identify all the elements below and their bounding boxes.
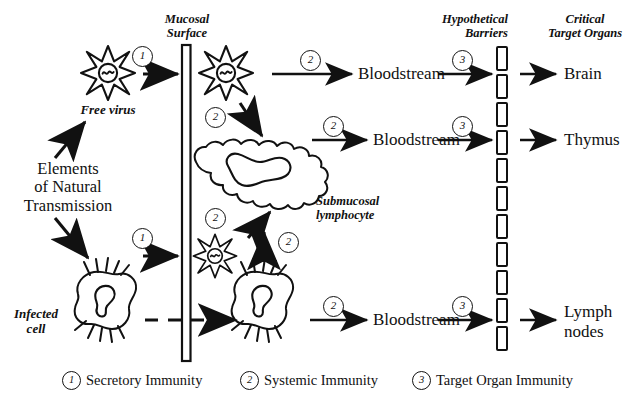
arrow-virus-up-to-lymphocyte [248,212,270,238]
step-marker-cell-entry: 1 [132,228,153,249]
arrow-virus-to-lymphocyte [240,103,262,136]
legend-item-systemic-immunity: 2Systemic Immunity [240,371,378,390]
mucosal-surface-bar [182,45,191,361]
organ-thymus: Thymus [564,130,620,149]
step-marker-cell-to-blood: 2 [323,296,344,317]
step-marker-virus-infect: 2 [205,107,226,128]
legend-label-1: Secretory Immunity [86,372,202,388]
legend-marker-2: 2 [240,371,259,390]
legend-marker-1: 1 [62,371,81,390]
legend-item-target-organ-immunity: 3Target Organ Immunity [412,371,573,390]
label-free-virus: Free virus [62,103,154,118]
header-mucosal-surface: Mucosal Surface [150,12,224,40]
arrow-transmission-to-cell [55,218,88,258]
submucosal-virus-icon [193,234,236,277]
free-virus-icon [81,46,135,100]
organ-brain: Brain [564,64,602,83]
diagram-canvas: Mucosal Surface Hypothetical Barriers Cr… [0,0,644,411]
submucosal-lymphocyte-icon [195,140,328,209]
arrow-transmission-to-virus [55,122,85,158]
step-marker-cell-to-virus: 2 [205,208,226,229]
step-marker-virus-entry: 1 [132,46,153,67]
legend-label-3: Target Organ Immunity [436,372,573,388]
hypothetical-barrier-stack [497,47,507,350]
legend-label-2: Systemic Immunity [264,372,378,388]
label-elements-of-natural-transmission: Elements of Natural Transmission [12,160,124,215]
label-submucosal-lymphocyte: Submucosal lymphocyte [316,194,426,222]
header-critical-target-organs: Critical Target Organs [535,12,635,40]
step-marker-cell-to-lymphocyte: 2 [278,232,299,253]
organ-lymph-nodes: Lymph nodes [564,302,612,341]
step-marker-lymphocyte-to-blood-2: 2 [323,116,344,137]
legend-item-secretory-immunity: 1Secretory Immunity [62,371,202,390]
step-marker-barrier-brain: 3 [452,50,473,71]
bloodstream-brain: Bloodstream [358,64,445,83]
luminal-virus-icon [199,46,253,100]
bloodstream-thymus: Bloodstream [373,130,460,149]
bloodstream-lymph: Bloodstream [373,310,460,329]
infected-cell-icon [75,258,136,342]
label-infected-cell: Infected cell [6,307,66,336]
step-marker-barrier-thymus: 3 [452,116,473,137]
step-marker-barrier-lymph: 3 [452,296,473,317]
step-marker-lymphocyte-to-blood-1: 2 [300,50,321,71]
legend-marker-3: 3 [412,371,431,390]
submucosal-infected-cell-icon [232,258,293,342]
header-hypothetical-barriers: Hypothetical Barriers [428,12,508,40]
